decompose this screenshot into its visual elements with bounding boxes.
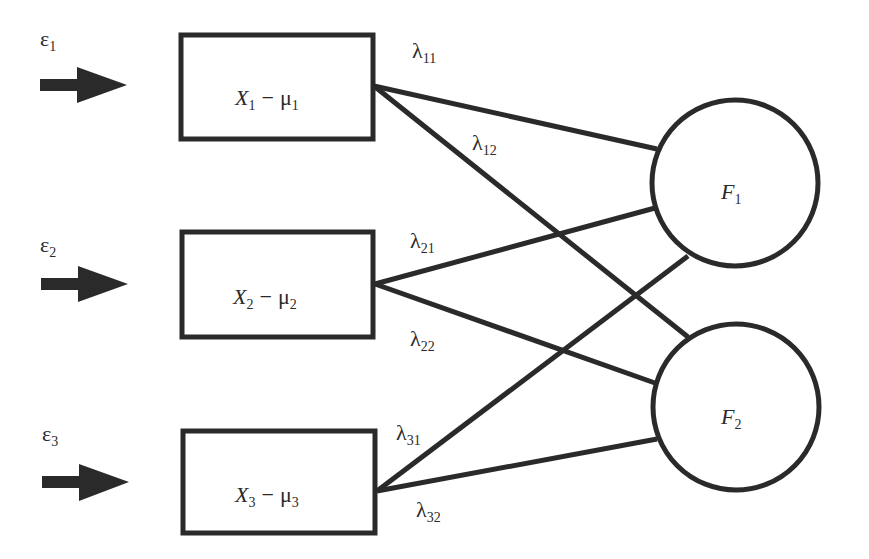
observed-label-x1: X1−μ1 (234, 85, 299, 113)
observed-label-x3: X3−μ3 (234, 482, 299, 510)
loading-label-32: λ32 (416, 497, 441, 525)
loading-label-21: λ21 (410, 228, 435, 256)
loading-label-31: λ31 (396, 420, 421, 448)
loading-label-12: λ12 (472, 130, 497, 158)
factor-circle-f1 (652, 100, 818, 266)
error-arrow-3-icon (42, 464, 129, 501)
loading-label-22: λ22 (410, 326, 435, 354)
observed-label-x2: X2−μ2 (232, 284, 297, 312)
error-arrow-2-icon (41, 266, 128, 302)
error-arrow-1-icon (40, 67, 127, 103)
loading-label-11: λ11 (412, 38, 436, 66)
path-x3-f1 (377, 256, 688, 491)
error-label-3: ε3 (42, 421, 58, 449)
observed-box-x1 (181, 35, 373, 139)
factor-diagram: ε1 ε2 ε3 X1−μ1 X2−μ2 X3−μ3 F1 F2 λ11 λ12… (0, 0, 869, 559)
error-label-2: ε2 (40, 232, 56, 260)
factor-circle-f2 (653, 324, 819, 490)
error-label-1: ε1 (40, 26, 56, 54)
